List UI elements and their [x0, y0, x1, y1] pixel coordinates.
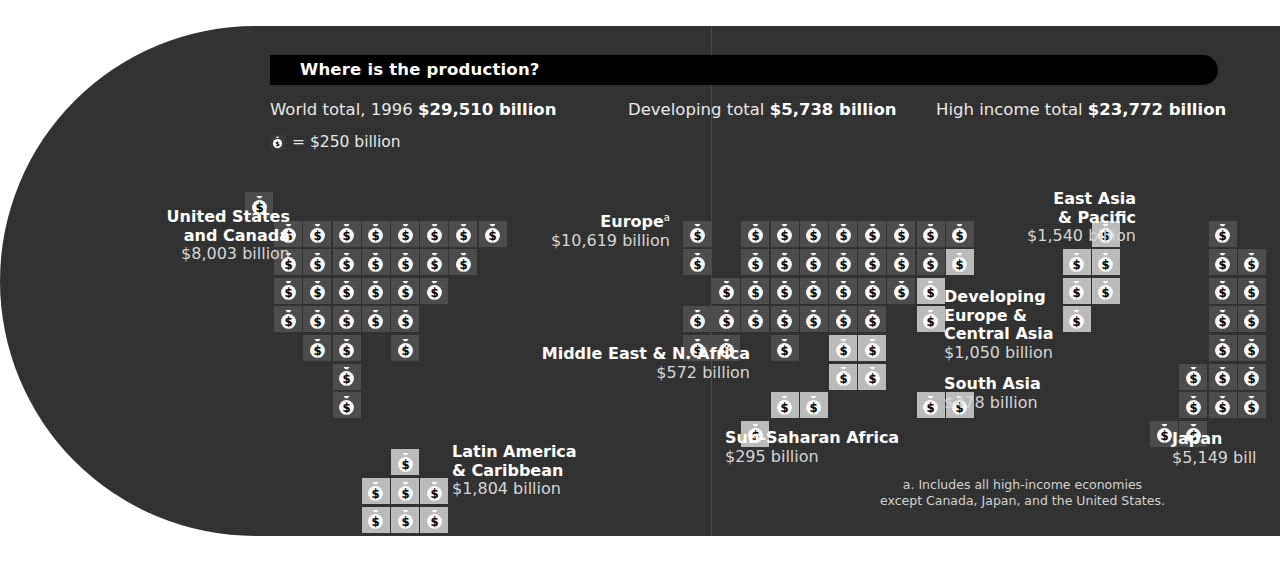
money-bag-icon: $: [1092, 278, 1120, 304]
svg-text:$: $: [810, 286, 818, 300]
money-bag-icon: $: [420, 507, 448, 533]
label-middle-east-n-africa: Middle East & N. Africa $572 billion: [450, 345, 750, 382]
svg-text:$: $: [459, 257, 467, 271]
label-latin-america-caribbean: Latin America & Caribbean $1,804 billion: [452, 443, 577, 499]
money-bag-icon: $: [1238, 364, 1266, 390]
label-east-asia-line1: East Asia: [966, 190, 1136, 209]
svg-text:$: $: [868, 343, 876, 357]
label-europe: Europea $10,619 billion: [470, 212, 670, 250]
money-bag-icon: $: [683, 306, 711, 332]
svg-text:$: $: [1102, 257, 1110, 271]
footnote: a. Includes all high-income economies ex…: [880, 477, 1165, 508]
label-middle-east-name: Middle East & N. Africa: [450, 345, 750, 364]
money-bag-icon: $: [1209, 335, 1237, 361]
svg-text:$: $: [313, 314, 321, 328]
svg-text:$: $: [372, 314, 380, 328]
money-bag-icon: $: [771, 249, 799, 275]
money-bag-icon: $: [303, 278, 331, 304]
money-bag-icon: $: [858, 249, 886, 275]
svg-text:$: $: [1248, 257, 1256, 271]
label-japan-name: Japan: [1172, 430, 1257, 449]
label-europe-superscript: a: [664, 212, 670, 223]
money-bag-icon: $: [712, 278, 740, 304]
label-europe-text: Europe: [600, 212, 664, 231]
money-bag-icon: $: [391, 306, 419, 332]
svg-text:$: $: [780, 343, 788, 357]
footnote-line-2: except Canada, Japan, and the United Sta…: [880, 493, 1165, 509]
label-south-asia-value: $478 billion: [944, 394, 1041, 413]
svg-text:$: $: [722, 286, 730, 300]
footnote-line-1: a. Includes all high-income economies: [880, 477, 1165, 493]
svg-text:$: $: [1218, 314, 1226, 328]
money-bag-icon: $: [771, 335, 799, 361]
svg-text:$: $: [780, 229, 788, 243]
svg-text:$: $: [372, 257, 380, 271]
money-bag-icon: $: [829, 364, 857, 390]
money-bag-icon: $: [741, 306, 769, 332]
label-latin-america-value: $1,804 billion: [452, 480, 577, 499]
svg-text:$: $: [868, 286, 876, 300]
money-bag-icon: $: [362, 278, 390, 304]
svg-text:$: $: [284, 314, 292, 328]
svg-text:$: $: [868, 229, 876, 243]
money-bag-icon: $: [333, 335, 361, 361]
svg-text:$: $: [372, 515, 380, 529]
money-bag-icon: $: [420, 249, 448, 275]
svg-text:$: $: [810, 314, 818, 328]
svg-text:$: $: [372, 229, 380, 243]
svg-text:$: $: [430, 257, 438, 271]
label-latin-america-line2: & Caribbean: [452, 462, 577, 481]
svg-text:$: $: [401, 343, 409, 357]
money-bag-icon: $: [1179, 364, 1207, 390]
money-bag-icon: $: [391, 278, 419, 304]
label-europe-value: $10,619 billion: [470, 232, 670, 251]
svg-text:$: $: [751, 314, 759, 328]
money-bag-icon: $: [362, 478, 390, 504]
money-bag-icon: $: [333, 278, 361, 304]
svg-text:$: $: [284, 286, 292, 300]
svg-text:$: $: [1189, 372, 1197, 386]
money-bag-icon: $: [1209, 392, 1237, 418]
svg-text:$: $: [1102, 286, 1110, 300]
label-us-canada: United States and Canada $8,003 billion: [130, 208, 290, 264]
svg-text:$: $: [897, 257, 905, 271]
label-japan: Japan $5,149 bill: [1172, 430, 1257, 467]
svg-text:$: $: [430, 486, 438, 500]
money-bag-icon: $: [800, 392, 828, 418]
total-developing-label: Developing total: [628, 100, 770, 119]
svg-text:$: $: [313, 343, 321, 357]
svg-text:$: $: [780, 400, 788, 414]
svg-text:$: $: [839, 372, 847, 386]
money-bag-icon: $: [887, 221, 915, 247]
svg-text:$: $: [751, 229, 759, 243]
money-bag-icon: $: [800, 306, 828, 332]
svg-text:$: $: [810, 400, 818, 414]
money-bag-icon: $: [274, 306, 302, 332]
label-south-asia: South Asia $478 billion: [944, 375, 1041, 412]
label-sub-saharan-africa: Sub-Saharan Africa $295 billion: [725, 429, 899, 466]
money-bag-icon: $: [391, 335, 419, 361]
money-bag-icon: $: [1209, 249, 1237, 275]
svg-text:$: $: [751, 257, 759, 271]
svg-text:$: $: [342, 286, 350, 300]
svg-text:$: $: [342, 400, 350, 414]
total-world-value: $29,510 billion: [418, 100, 556, 119]
svg-text:$: $: [868, 314, 876, 328]
label-dev-europe-line2: Europe &: [944, 307, 1054, 326]
label-south-asia-name: South Asia: [944, 375, 1041, 394]
svg-text:$: $: [1218, 343, 1226, 357]
money-bag-icon: $: [1238, 306, 1266, 332]
money-bag-icon: $: [333, 364, 361, 390]
svg-text:$: $: [839, 314, 847, 328]
svg-text:$: $: [430, 229, 438, 243]
svg-text:$: $: [956, 229, 964, 243]
svg-text:$: $: [430, 286, 438, 300]
money-bag-icon: $: [800, 278, 828, 304]
svg-text:$: $: [1218, 372, 1226, 386]
money-bag-icon: $: [333, 392, 361, 418]
svg-text:$: $: [780, 314, 788, 328]
label-japan-value: $5,149 bill: [1172, 449, 1257, 468]
money-bag-icon: $: [741, 221, 769, 247]
money-bag-icon: $: [1238, 249, 1266, 275]
svg-text:$: $: [401, 257, 409, 271]
